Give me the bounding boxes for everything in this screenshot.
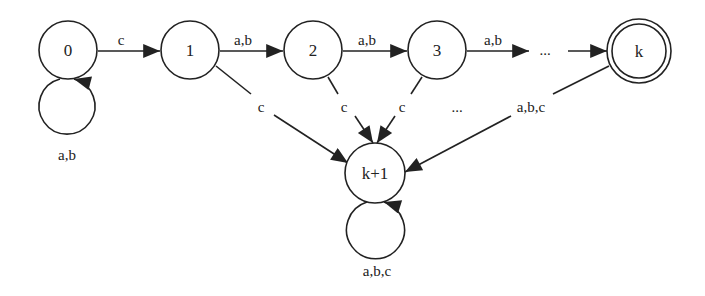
edge-2-3-label: a,b <box>358 32 376 48</box>
edge-3-kp1-label: c <box>399 99 406 115</box>
loop-0-label: a,b <box>58 147 76 163</box>
state-k-label: k <box>635 42 644 61</box>
state-kp1-label: k+1 <box>362 164 389 183</box>
ellipsis-top: ... <box>539 42 550 58</box>
state-3: 3 <box>408 21 466 79</box>
state-k-plus-1: k+1 <box>345 143 405 203</box>
edge-1-2-label: a,b <box>234 32 252 48</box>
edge-2-kp1-b <box>355 116 373 143</box>
state-2: 2 <box>284 21 342 79</box>
edge-2-kp1-a <box>328 77 338 94</box>
automaton-diagram: a,b c a,b a,b a,b ... c c c ... a,b,c a,… <box>0 0 705 296</box>
edge-k-kp1-b <box>405 116 511 172</box>
ellipsis-mid: ... <box>451 99 462 115</box>
edge-3-ellipsis-label: a,b <box>484 32 502 48</box>
state-1-label: 1 <box>186 41 195 60</box>
self-loop-kp1 <box>347 202 405 259</box>
edge-0-1-label: c <box>118 32 125 48</box>
state-3-label: 3 <box>433 41 442 60</box>
self-loop-0 <box>39 79 95 134</box>
edge-k-kp1-label: a,b,c <box>517 99 546 115</box>
state-1: 1 <box>161 21 219 79</box>
state-0: 0 <box>39 21 97 79</box>
edge-3-kp1-b <box>377 116 395 143</box>
state-2-label: 2 <box>309 41 318 60</box>
edge-1-kp1-label: c <box>258 99 265 115</box>
edge-3-kp1-a <box>411 77 422 94</box>
state-0-label: 0 <box>64 41 73 60</box>
state-k-accepting: k <box>607 19 671 83</box>
edge-2-kp1-label: c <box>341 99 348 115</box>
loop-kp1-label: a,b,c <box>363 263 392 279</box>
edge-1-kp1-b <box>274 115 348 163</box>
edge-1-kp1-a <box>216 66 251 94</box>
edge-k-kp1-a <box>553 66 609 94</box>
